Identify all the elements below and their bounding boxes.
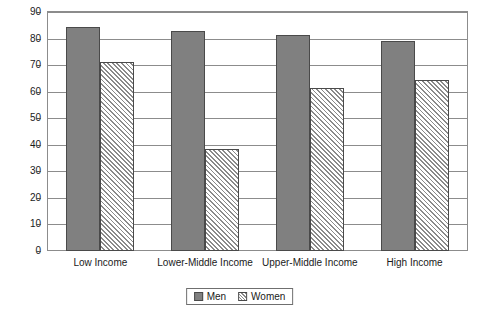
y-tick-mark: [36, 92, 41, 93]
bar-chart: 0102030405060708090 Low IncomeLower-Midd…: [0, 0, 479, 315]
bar-men-1: [171, 31, 205, 251]
bar-women-1: [205, 149, 239, 251]
bar-men-2: [276, 35, 310, 251]
legend-swatch-men-icon: [194, 292, 203, 301]
y-tick-mark: [36, 12, 41, 13]
legend-item-men: Men: [194, 291, 226, 302]
bar-men-3: [381, 41, 415, 251]
bar-women-0: [100, 62, 134, 251]
y-tick-mark: [36, 65, 41, 66]
y-tick-mark: [36, 198, 41, 199]
x-tick-label: High Income: [362, 256, 467, 269]
y-axis: 0102030405060708090: [0, 11, 41, 251]
bar-women-2: [310, 88, 344, 251]
y-tick-mark: [36, 251, 41, 252]
legend-label-women: Women: [251, 291, 285, 302]
bar-men-0: [66, 27, 100, 251]
y-tick-mark: [36, 118, 41, 119]
y-tick-mark: [36, 171, 41, 172]
bars-layer: [48, 12, 467, 251]
x-tick-label: Upper-Middle Income: [258, 256, 363, 269]
x-tick-label: Low Income: [48, 256, 153, 269]
legend-label-men: Men: [207, 291, 226, 302]
legend-item-women: Women: [238, 291, 285, 302]
chart-legend: Men Women: [186, 288, 294, 305]
y-tick-mark: [36, 224, 41, 225]
x-tick-label: Lower-Middle Income: [153, 256, 258, 269]
bar-women-3: [415, 80, 449, 251]
y-tick-mark: [36, 39, 41, 40]
legend-swatch-women-icon: [238, 292, 247, 301]
y-tick-mark: [36, 145, 41, 146]
x-axis-labels: Low IncomeLower-Middle IncomeUpper-Middl…: [48, 256, 467, 286]
